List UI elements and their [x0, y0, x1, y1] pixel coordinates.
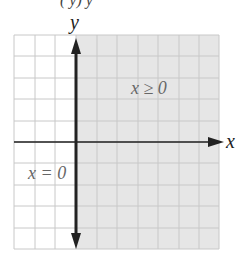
y-axis-label: y [70, 11, 79, 34]
x-axis-label: x [226, 130, 235, 153]
coordinate-graph [0, 0, 240, 257]
inequality-label: x ≥ 0 [131, 78, 167, 99]
boundary-line-label: x = 0 [28, 163, 66, 184]
